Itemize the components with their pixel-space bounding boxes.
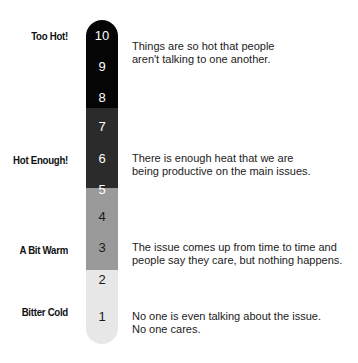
level-description-bitter-cold: No one is even talking about the issue. … xyxy=(132,310,358,336)
description-line: No one is even talking about the issue. xyxy=(132,310,358,323)
scale-number-7: 7 xyxy=(86,120,118,134)
level-label-a-bit-warm: A Bit Warm xyxy=(0,244,68,256)
description-line: There is enough heat that we are xyxy=(132,152,358,165)
scale-number-5: 5 xyxy=(86,183,118,197)
level-description-hot-enough: There is enough heat that we are being p… xyxy=(132,152,358,178)
thermometer: 10 9 8 7 6 5 4 3 2 1 xyxy=(86,20,118,344)
scale-number-8: 8 xyxy=(86,91,118,105)
level-label-too-hot: Too Hot! xyxy=(0,30,68,42)
scale-number-2: 2 xyxy=(86,273,118,287)
scale-number-6: 6 xyxy=(86,152,118,166)
scale-number-3: 3 xyxy=(86,241,118,255)
description-line: No one cares. xyxy=(132,323,358,336)
scale-number-9: 9 xyxy=(86,60,118,74)
scale-number-10: 10 xyxy=(86,29,118,43)
level-label-bitter-cold: Bitter Cold xyxy=(0,306,68,318)
segment-a-bit-warm xyxy=(86,188,118,270)
level-description-a-bit-warm: The issue comes up from time to time and… xyxy=(132,241,358,267)
scale-number-1: 1 xyxy=(86,310,118,324)
level-description-too-hot: Things are so hot that people aren't tal… xyxy=(132,40,358,66)
description-line: people say they care, but nothing happen… xyxy=(132,254,358,267)
description-line: Things are so hot that people xyxy=(132,40,358,53)
description-line: aren't talking to one another. xyxy=(132,53,358,66)
level-label-hot-enough: Hot Enough! xyxy=(0,154,68,166)
description-line: The issue comes up from time to time and xyxy=(132,241,358,254)
scale-number-4: 4 xyxy=(86,210,118,224)
description-line: being productive on the main issues. xyxy=(132,165,358,178)
